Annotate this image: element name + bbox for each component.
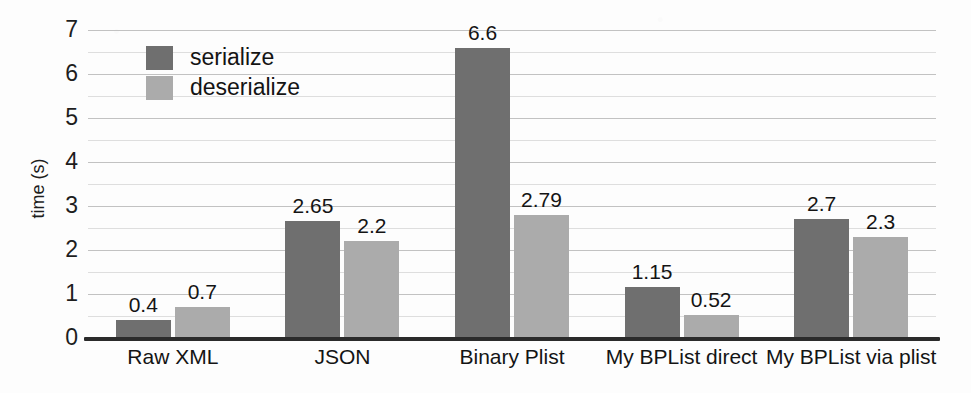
bar-value-label: 6.6 bbox=[443, 22, 522, 43]
bar-value-label: 1.15 bbox=[613, 261, 692, 282]
y-axis-tick-labels: 01234567 bbox=[44, 0, 78, 393]
bar-value-label: 2.65 bbox=[273, 195, 352, 216]
y-axis-tick: 2 bbox=[50, 238, 78, 261]
bar-serialize bbox=[116, 320, 171, 338]
x-axis-line bbox=[84, 337, 940, 341]
bar-value-label: 2.3 bbox=[841, 211, 920, 232]
legend-label: deserialize bbox=[190, 76, 300, 99]
bar-value-label: 2.2 bbox=[332, 215, 411, 236]
legend-swatch-icon bbox=[146, 76, 173, 100]
bar-serialize bbox=[285, 221, 340, 338]
y-axis-tick: 3 bbox=[50, 194, 78, 217]
bar-deserialize bbox=[175, 307, 230, 338]
y-axis-tick: 4 bbox=[50, 150, 78, 173]
chart-screenshot: time (s) 01234567 0.40.72.652.26.62.791.… bbox=[0, 0, 971, 393]
bar-deserialize bbox=[344, 241, 399, 338]
bar-deserialize bbox=[853, 237, 908, 338]
legend-item: deserialize bbox=[146, 74, 300, 101]
y-axis-tick: 1 bbox=[50, 282, 78, 305]
category-label: My BPList via plist bbox=[741, 346, 961, 367]
gridline bbox=[88, 184, 936, 185]
gridline bbox=[88, 140, 936, 141]
y-axis-tick: 5 bbox=[50, 106, 78, 129]
y-axis-tick: 7 bbox=[50, 18, 78, 41]
y-axis-tick: 6 bbox=[50, 62, 78, 85]
legend-swatch-icon bbox=[146, 46, 173, 70]
bar-serialize bbox=[794, 219, 849, 338]
bar-value-label: 0.7 bbox=[163, 281, 242, 302]
bar-deserialize bbox=[514, 215, 569, 338]
gridline bbox=[88, 118, 936, 119]
bar-deserialize bbox=[684, 315, 739, 338]
legend-item: serialize bbox=[146, 44, 300, 71]
legend-label: serialize bbox=[190, 46, 274, 69]
chart-legend: serializedeserialize bbox=[146, 44, 300, 104]
bar-value-label: 0.52 bbox=[672, 289, 751, 310]
gridline bbox=[88, 162, 936, 163]
bar-value-label: 2.79 bbox=[502, 189, 581, 210]
